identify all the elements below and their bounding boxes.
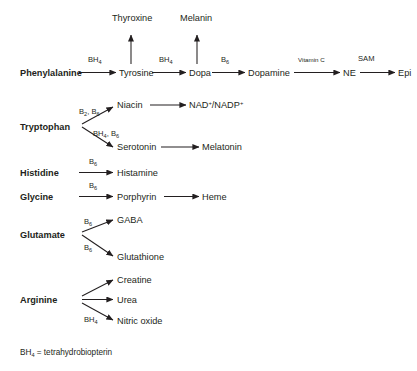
- node-thyroxine: Thyroxine: [112, 13, 152, 23]
- node-epi: Epi: [398, 68, 411, 78]
- node-melatonin: Melatonin: [202, 142, 242, 152]
- node-gaba: GABA: [117, 215, 143, 225]
- node-creatine: Creatine: [117, 275, 152, 285]
- node-arginine: Arginine: [20, 295, 57, 305]
- node-porphyrin: Porphyrin: [117, 192, 156, 202]
- cofactor-trp-niacin: B2, B6: [79, 107, 100, 117]
- node-tryptophan: Tryptophan: [20, 122, 70, 132]
- cofactor-trp-serotonin: BH4, B6: [93, 129, 119, 139]
- node-glutamate: Glutamate: [20, 230, 65, 240]
- node-nitric-oxide: Nitric oxide: [117, 316, 162, 326]
- node-histidine: Histidine: [20, 168, 59, 178]
- cofactor-phe-tyr: BH4: [88, 55, 102, 65]
- cofactor-tyr-dopa: BH4: [159, 55, 173, 65]
- node-glycine: Glycine: [20, 192, 53, 202]
- arrow-arg-creatine: [82, 280, 113, 296]
- node-histamine: Histamine: [117, 168, 158, 178]
- node-dopa: Dopa: [189, 68, 212, 78]
- cofactor-his-histamine: B6: [89, 157, 97, 167]
- cofactor-glu-gaba: B6: [84, 217, 92, 227]
- node-melanin: Melanin: [180, 13, 212, 23]
- legend-footnote: BH4 = tetrahydrobiopterin: [20, 348, 113, 358]
- node-urea: Urea: [117, 295, 138, 305]
- cofactor-gly-porphyrin: B6: [89, 181, 97, 191]
- cofactor-ne-epi: SAM: [358, 54, 374, 63]
- node-tyrosine: Tyrosine: [119, 68, 154, 78]
- node-serotonin: Serotonin: [117, 142, 156, 152]
- node-niacin: Niacin: [117, 100, 143, 110]
- node-nad: NAD+/NADP+: [189, 100, 244, 110]
- node-glutathione: Glutathione: [117, 252, 164, 262]
- cofactor-dopamine-ne: Vitamin C: [298, 56, 325, 63]
- node-phenylalanine: Phenylalanine: [20, 68, 82, 78]
- pathway-canvas: Phenylalanine Tyrosine Dopa Dopamine NE …: [0, 0, 417, 371]
- node-dopamine: Dopamine: [248, 68, 290, 78]
- node-heme: Heme: [202, 192, 227, 202]
- cofactor-glu-glutathione: B6: [84, 243, 92, 253]
- cofactor-dopa-dopamine: B6: [221, 55, 229, 65]
- node-ne: NE: [343, 68, 356, 78]
- pathway-diagram: Phenylalanine Tyrosine Dopa Dopamine NE …: [0, 0, 417, 371]
- cofactor-arg-nitric-oxide: BH4: [84, 315, 98, 325]
